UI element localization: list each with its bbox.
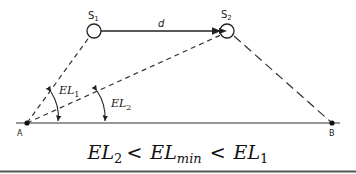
point-a-label: A [17, 129, 23, 138]
distance-label: d [158, 18, 165, 29]
elevation-angle-diagram: S1 S2 d A B EL1 EL2 EL2<ELmin<EL1 [0, 0, 356, 174]
satellite-s1-icon [87, 24, 101, 38]
angle-el1-label: EL1 [58, 84, 79, 99]
angle-el2-label: EL2 [110, 97, 131, 112]
satellite-s1-label: S1 [88, 10, 99, 23]
angle-el1-arc [51, 92, 58, 121]
elevation-inequality-formula: EL2<ELmin<EL1 [87, 141, 269, 166]
arrowhead-right [219, 28, 227, 34]
line-s2-to-b [234, 36, 332, 123]
point-b [329, 120, 334, 125]
point-a [24, 120, 29, 125]
angle-el2-arc [97, 91, 105, 121]
point-b-label: B [329, 129, 335, 138]
satellite-s2-label: S2 [221, 9, 232, 22]
